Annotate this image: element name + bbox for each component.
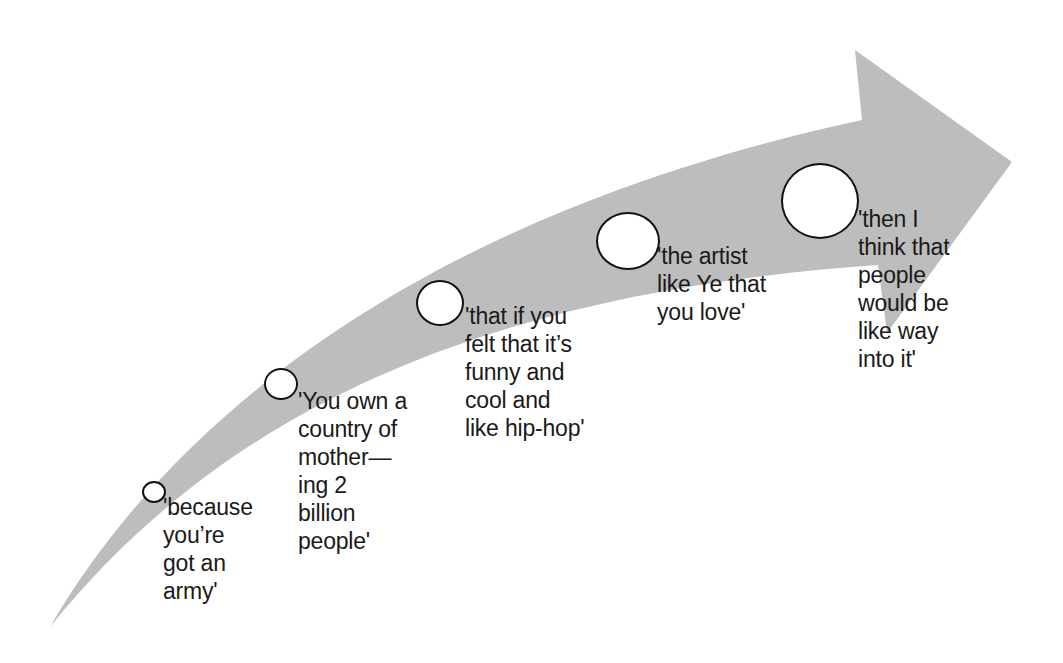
step-5-label: 'then I think that people would be like … <box>858 205 949 373</box>
step-3-circle-icon <box>416 280 464 326</box>
step-4-label: 'the artist like Ye that you love' <box>657 242 766 326</box>
step-2-circle-icon <box>264 368 298 400</box>
step-4-circle-icon <box>596 212 660 270</box>
step-2-label: 'You own a country of mother— ing 2 bill… <box>298 387 407 555</box>
step-3-label: 'that if you felt that it’s funny and co… <box>465 302 584 442</box>
step-5-circle-icon <box>781 163 859 239</box>
step-1-label: 'because you’re got an army' <box>163 493 253 605</box>
